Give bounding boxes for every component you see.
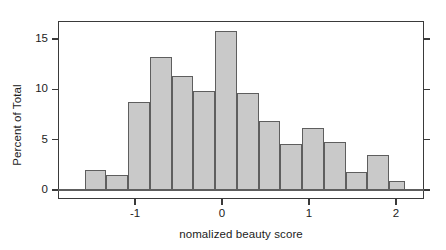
y-axis-tick-mirror — [424, 139, 430, 140]
x-axis-tick — [395, 199, 396, 205]
histogram-bar — [237, 93, 259, 190]
y-axis-tick-mirror — [424, 89, 430, 90]
histogram-bar — [346, 172, 368, 190]
y-axis-tick-label: 5 — [8, 134, 48, 146]
histogram-bar — [193, 91, 215, 190]
histogram-bar — [280, 144, 302, 190]
histogram-bar — [172, 76, 194, 190]
x-axis-tick-label: 2 — [376, 208, 416, 220]
y-axis-tick-label: 10 — [8, 83, 48, 95]
x-axis-title: nomalized beauty score — [58, 228, 424, 240]
y-axis-tick — [52, 139, 58, 140]
histogram-bar — [259, 121, 281, 190]
x-axis-tick — [134, 199, 135, 205]
y-axis-tick — [52, 189, 58, 190]
histogram-bar — [215, 31, 237, 190]
histogram-bar — [302, 128, 324, 190]
x-axis-tick-label: 1 — [289, 208, 329, 220]
x-axis-tick-label: -1 — [115, 208, 155, 220]
x-axis-tick — [221, 199, 222, 205]
y-axis-tick-label: 0 — [8, 184, 48, 196]
plot-area — [58, 21, 424, 199]
histogram-bar — [324, 142, 346, 190]
histogram-bar — [128, 102, 150, 190]
histogram-bar — [367, 155, 389, 190]
histogram-bar — [85, 170, 107, 190]
y-axis-tick — [52, 89, 58, 90]
y-axis-tick — [52, 38, 58, 39]
y-axis-tick-label: 15 — [8, 33, 48, 45]
x-axis-tick — [308, 199, 309, 205]
histogram-bar — [150, 57, 172, 190]
x-axis-tick-label: 0 — [202, 208, 242, 220]
y-axis-tick-mirror — [424, 38, 430, 39]
histogram-figure: Percent of Total 051015 -1012 nomalized … — [0, 0, 446, 250]
axis-baseline — [58, 189, 424, 192]
y-axis-tick-mirror — [424, 189, 430, 190]
